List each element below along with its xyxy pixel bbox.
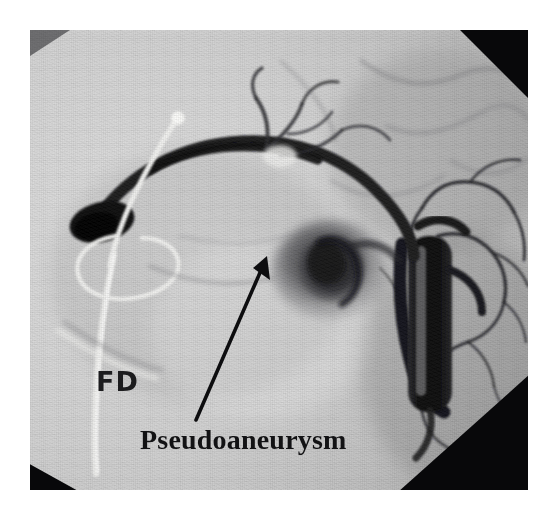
angiogram-figure: FD Pseudoaneurysm: [0, 0, 559, 517]
radiograph-plate: FD Pseudoaneurysm: [30, 30, 528, 490]
annotation-overlay: [30, 30, 528, 490]
pseudoaneurysm-arrow: [196, 256, 270, 420]
